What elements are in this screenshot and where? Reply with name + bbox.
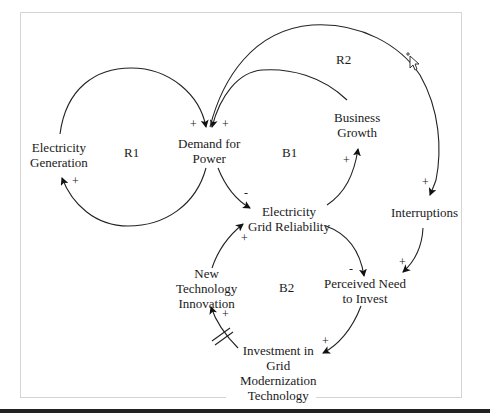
link-innovation-to-reliability [212,224,243,268]
node-business-growth: Business Growth [334,110,380,140]
link-generation-to-demand [60,68,206,134]
loop-label-b1: B1 [282,145,297,161]
polarity-sign: + [399,256,406,268]
loop-label-b2: B2 [279,280,294,296]
loop-label-r1: R1 [124,145,139,161]
polarity-sign: + [222,118,229,130]
polarity-sign: - [349,263,353,275]
polarity-sign: + [222,308,229,320]
node-new-technology-innovation: New Technology Innovation [176,266,237,311]
polarity-sign: + [72,175,79,187]
link-reliability-to-need [326,226,364,276]
node-interruptions: Interruptions [391,205,458,220]
node-electricity-generation: Electricity Generation [30,140,88,170]
node-perceived-need: Perceived Need to Invest [324,276,406,306]
polarity-sign: + [190,118,197,130]
link-demand-to-generation [62,168,206,226]
polarity-sign: + [241,232,248,244]
link-interruptions-to-need [403,228,423,272]
polarity-sign: + [343,154,350,166]
polarity-sign: - [244,187,248,199]
mouse-cursor-icon [406,52,419,70]
node-grid-reliability: Electricity Grid Reliability [248,204,330,234]
node-demand-for-power: Demand for Power [178,136,240,166]
node-investment-grid-modernization: Investment in Grid Modernization Technol… [240,343,317,403]
link-demand-to-interruptions [210,25,439,195]
loop-label-r2: R2 [336,52,351,68]
polarity-sign: + [422,176,429,188]
polarity-sign: + [322,335,329,347]
link-business-to-demand [212,70,347,127]
